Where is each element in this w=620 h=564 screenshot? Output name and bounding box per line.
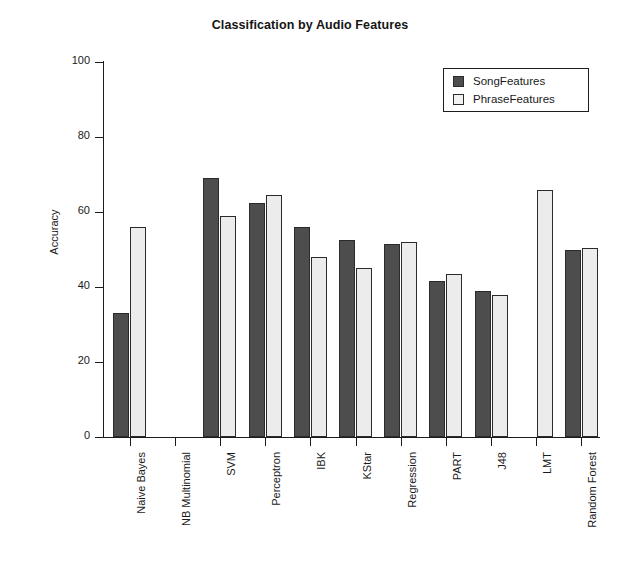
x-axis-category-label: PART xyxy=(451,452,463,480)
x-axis-category-label: Perceptron xyxy=(270,452,282,506)
x-axis-category-label: Regression xyxy=(406,452,418,508)
bar xyxy=(311,257,327,437)
legend-item-song-features: SongFeatures xyxy=(453,75,545,87)
bar xyxy=(294,227,310,437)
x-axis-tick xyxy=(581,438,582,446)
y-axis-tick xyxy=(95,137,103,138)
y-axis-tick-label: 80 xyxy=(50,129,90,141)
y-axis-tick-label: 60 xyxy=(50,204,90,216)
bar xyxy=(446,274,462,437)
x-axis-category-label: NB Multinomial xyxy=(180,452,192,526)
bar xyxy=(356,268,372,437)
bar xyxy=(429,281,445,437)
x-axis-tick xyxy=(175,438,176,446)
bar xyxy=(249,203,265,437)
x-axis-line xyxy=(103,437,600,438)
x-axis-category-label: J48 xyxy=(496,452,508,470)
bar xyxy=(582,248,598,437)
legend-swatch-icon-phrasefeatures xyxy=(453,94,464,105)
x-axis-category-label: LMT xyxy=(541,452,553,474)
y-axis-tick xyxy=(95,437,103,438)
chart-title: Classification by Audio Features xyxy=(0,18,620,32)
y-axis-tick-label: 0 xyxy=(50,429,90,441)
y-axis-tick-label: 20 xyxy=(50,354,90,366)
y-axis-tick xyxy=(95,362,103,363)
legend-swatch-icon-songfeatures xyxy=(453,76,464,87)
x-axis-category-label: Random Forest xyxy=(586,452,598,528)
bar xyxy=(384,244,400,437)
y-axis-tick xyxy=(95,287,103,288)
x-axis-tick xyxy=(130,438,131,446)
y-axis-tick-label: 100 xyxy=(50,54,90,66)
bar xyxy=(492,295,508,438)
x-axis-tick xyxy=(401,438,402,446)
x-axis-tick xyxy=(265,438,266,446)
y-axis-label: Accuracy xyxy=(48,172,60,292)
bar xyxy=(130,227,146,437)
x-axis-tick xyxy=(356,438,357,446)
bar-chart: Classification by Audio Features Accurac… xyxy=(0,0,620,564)
x-axis-category-label: SVM xyxy=(225,452,237,476)
y-axis-tick-label: 40 xyxy=(50,279,90,291)
x-axis-tick xyxy=(536,438,537,446)
x-axis-tick xyxy=(220,438,221,446)
legend-label-songfeatures: SongFeatures xyxy=(473,75,545,87)
plot-area xyxy=(103,62,600,437)
y-axis-tick xyxy=(95,62,103,63)
x-axis-category-label: KStar xyxy=(361,452,373,480)
bar xyxy=(113,313,129,437)
bar xyxy=(475,291,491,437)
bar xyxy=(565,250,581,438)
bar xyxy=(537,190,553,438)
bar xyxy=(401,242,417,437)
legend-item-phrase-features: PhraseFeatures xyxy=(453,93,555,105)
x-axis-tick xyxy=(310,438,311,446)
legend-label-phrasefeatures: PhraseFeatures xyxy=(473,93,555,105)
bar xyxy=(339,240,355,437)
bar xyxy=(203,178,219,437)
x-axis-tick xyxy=(446,438,447,446)
bar xyxy=(220,216,236,437)
x-axis-category-label: Naive Bayes xyxy=(135,452,147,514)
x-axis-tick xyxy=(491,438,492,446)
chart-legend: SongFeatures PhraseFeatures xyxy=(443,68,589,112)
y-axis-tick xyxy=(95,212,103,213)
x-axis-category-label: IBK xyxy=(315,452,327,470)
bar xyxy=(266,195,282,437)
